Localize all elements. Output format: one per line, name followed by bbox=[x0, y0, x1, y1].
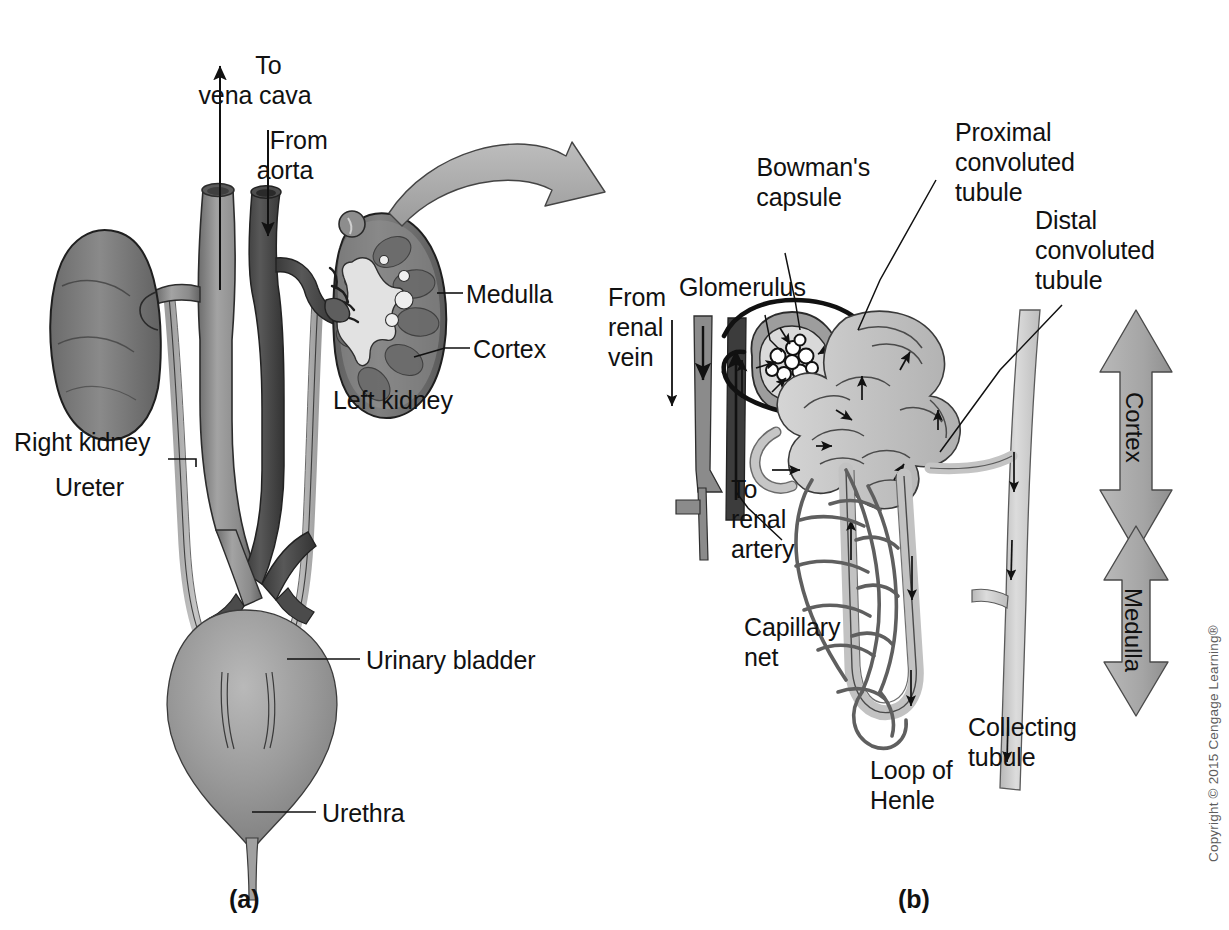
label-from-aorta: From aorta bbox=[230, 95, 340, 215]
label-loop-of-henle: Loop of Henle bbox=[870, 755, 953, 815]
urinary-bladder-shape bbox=[167, 610, 337, 900]
label-collecting-tubule: Collecting tubule bbox=[968, 712, 1077, 772]
label-ureter: Ureter bbox=[55, 472, 124, 502]
panel-a-id: (a) bbox=[229, 885, 260, 914]
label-cortex-zone: Cortex bbox=[1120, 392, 1148, 463]
label-urethra: Urethra bbox=[322, 798, 405, 828]
label-right-kidney: Right kidney bbox=[14, 427, 150, 457]
label-bowmans-capsule: Bowman's capsule bbox=[729, 122, 869, 242]
magnify-arrow bbox=[389, 142, 605, 226]
aorta bbox=[244, 186, 340, 584]
leader-proximal bbox=[858, 180, 936, 330]
label-to-renal-artery: To renal artery bbox=[731, 474, 794, 564]
panel-b-id: (b) bbox=[898, 885, 930, 914]
label-distal-convoluted-tubule: Distal convoluted tubule bbox=[1035, 205, 1155, 295]
label-capillary-net: Capillary net bbox=[744, 612, 840, 672]
label-from-renal-vein: From renal vein bbox=[608, 282, 666, 372]
label-urinary-bladder: Urinary bladder bbox=[366, 645, 535, 675]
label-medulla-zone: Medulla bbox=[1119, 588, 1147, 672]
right-kidney-shape bbox=[50, 230, 161, 440]
label-glomerulus: Glomerulus bbox=[679, 272, 806, 302]
label-cortex: Cortex bbox=[473, 334, 546, 364]
copyright-notice: Copyright © 2015 Cengage Learning® bbox=[1206, 625, 1221, 862]
urinary-system-figure: To vena cava From aorta Medulla Cortex L… bbox=[0, 0, 1229, 930]
label-proximal-convoluted-tubule: Proximal convoluted tubule bbox=[955, 117, 1075, 207]
label-medulla: Medulla bbox=[466, 279, 553, 309]
label-left-kidney: Left kidney bbox=[333, 385, 453, 415]
renal-vein-vessel bbox=[676, 316, 722, 560]
